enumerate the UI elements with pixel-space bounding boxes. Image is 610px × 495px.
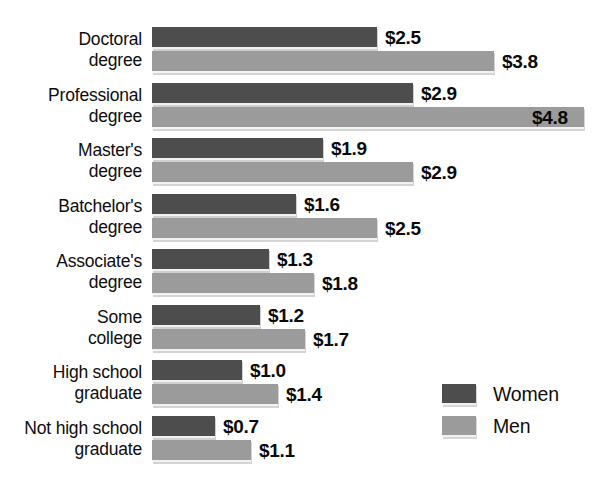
bar-pair: $2.9$4.8 — [152, 78, 610, 134]
legend-label-women: Women — [493, 383, 559, 406]
bar-row-group: Master's degree$1.9$2.9 — [0, 133, 610, 189]
bar-row-group: Batchelor's degree$1.6$2.5 — [0, 189, 610, 245]
bar-chart: Doctoral degree$2.5$3.8Professional degr… — [0, 0, 610, 495]
bar-women[interactable] — [152, 194, 296, 216]
bar-women[interactable] — [152, 138, 323, 160]
value-label-men: $1.4 — [286, 384, 322, 406]
bar-men[interactable] — [152, 107, 584, 129]
value-label-men: $3.8 — [502, 51, 538, 73]
category-label: Doctoral degree — [0, 29, 142, 71]
bar-men[interactable] — [152, 329, 305, 351]
bar-women[interactable] — [152, 249, 269, 271]
value-label-women: $1.3 — [277, 249, 313, 271]
value-label-men: $2.5 — [385, 218, 421, 240]
legend-swatch-men — [442, 416, 476, 437]
bar-row-group: Some college$1.2$1.7 — [0, 300, 610, 356]
bar-men[interactable] — [152, 384, 278, 406]
value-label-women: $2.5 — [385, 27, 421, 49]
bar-pair: $2.5$3.8 — [152, 22, 610, 78]
category-label: Master's degree — [0, 140, 142, 182]
bar-pair: $1.9$2.9 — [152, 133, 610, 189]
value-label-women: $1.6 — [304, 194, 340, 216]
bar-women[interactable] — [152, 360, 242, 382]
value-label-men: $1.7 — [313, 329, 349, 351]
value-label-men: $2.9 — [421, 162, 457, 184]
bar-pair: $1.3$1.8 — [152, 244, 610, 300]
value-label-women: $1.0 — [250, 360, 286, 382]
bar-men[interactable] — [152, 162, 413, 184]
value-label-women: $0.7 — [223, 416, 259, 438]
value-label-men: $1.8 — [322, 273, 358, 295]
bar-row-group: Doctoral degree$2.5$3.8 — [0, 22, 610, 78]
value-label-men: $1.1 — [259, 440, 295, 462]
bar-women[interactable] — [152, 416, 215, 438]
legend-item-women: Women — [442, 378, 602, 410]
value-label-women: $1.9 — [331, 138, 367, 160]
bar-row-group: Professional degree$2.9$4.8 — [0, 78, 610, 134]
bar-men[interactable] — [152, 218, 377, 240]
legend-label-men: Men — [493, 415, 530, 438]
value-label-women: $1.2 — [268, 305, 304, 327]
category-label: Associate's degree — [0, 251, 142, 293]
value-label-women: $2.9 — [421, 83, 457, 105]
bar-women[interactable] — [152, 305, 260, 327]
category-label: Batchelor's degree — [0, 196, 142, 238]
category-label: Professional degree — [0, 85, 142, 127]
bar-men[interactable] — [152, 273, 314, 295]
value-label-men: $4.8 — [532, 107, 568, 129]
bar-pair: $1.2$1.7 — [152, 300, 610, 356]
bar-women[interactable] — [152, 83, 413, 105]
category-label: High school graduate — [0, 362, 142, 404]
legend-item-men: Men — [442, 410, 602, 442]
bar-row-group: Associate's degree$1.3$1.8 — [0, 244, 610, 300]
bar-pair: $1.6$2.5 — [152, 189, 610, 245]
bar-men[interactable] — [152, 440, 251, 462]
chart-legend: Women Men — [442, 378, 602, 442]
category-label: Not high school graduate — [0, 418, 142, 460]
bar-men[interactable] — [152, 51, 494, 73]
legend-swatch-women — [442, 384, 476, 405]
category-label: Some college — [0, 307, 142, 349]
bar-women[interactable] — [152, 27, 377, 49]
